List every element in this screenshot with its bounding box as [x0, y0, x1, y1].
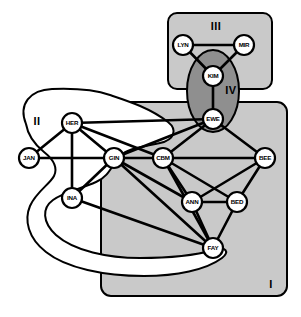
- node-ewe[interactable]: EWE: [203, 109, 223, 129]
- diagram-canvas: LYNMIRKIMEWEHERJANGINCBMBEEINAANNBEDFAY …: [0, 0, 301, 317]
- node-label: INA: [67, 194, 78, 201]
- node-label: EWE: [206, 115, 220, 122]
- node-her[interactable]: HER: [62, 113, 82, 133]
- node-ann[interactable]: ANN: [182, 192, 202, 212]
- node-label: CBM: [156, 154, 170, 161]
- region-label-iv: IV: [225, 84, 237, 96]
- node-jan[interactable]: JAN: [19, 148, 39, 168]
- node-label: GIN: [109, 154, 120, 161]
- node-bee[interactable]: BEE: [255, 148, 275, 168]
- node-label: FAY: [208, 244, 220, 251]
- node-fay[interactable]: FAY: [203, 238, 223, 258]
- region-label-ii: II: [33, 115, 40, 127]
- node-label: LYN: [177, 41, 189, 48]
- node-cbm[interactable]: CBM: [153, 148, 173, 168]
- node-label: BEE: [259, 154, 271, 161]
- node-mir[interactable]: MIR: [234, 35, 254, 55]
- node-ina[interactable]: INA: [62, 188, 82, 208]
- region-label-i: I: [269, 278, 273, 290]
- node-label: HER: [66, 119, 79, 126]
- region-label-iii: III: [211, 20, 222, 32]
- node-label: ANN: [186, 198, 200, 205]
- node-label: BED: [231, 198, 244, 205]
- node-label: KIM: [208, 72, 219, 79]
- node-label: MIR: [239, 41, 250, 48]
- node-kim[interactable]: KIM: [203, 66, 223, 86]
- node-label: JAN: [23, 154, 36, 161]
- node-bed[interactable]: BED: [227, 192, 247, 212]
- node-lyn[interactable]: LYN: [173, 35, 193, 55]
- node-gin[interactable]: GIN: [104, 148, 124, 168]
- network-graph: LYNMIRKIMEWEHERJANGINCBMBEEINAANNBEDFAY …: [0, 0, 301, 317]
